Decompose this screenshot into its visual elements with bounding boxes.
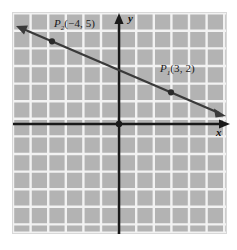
- coordinate-plane-figure: P2(−4, 5) P1(3, 2) y x: [0, 0, 237, 250]
- point-label-p1: P1(3, 2): [160, 62, 195, 77]
- point-label-p2-coords: (−4, 5): [64, 17, 95, 29]
- point-label-p1-name: P: [160, 62, 167, 74]
- x-axis-label: x: [216, 126, 222, 138]
- point-label-p2-name: P: [54, 17, 61, 29]
- plot-area-background: [13, 13, 226, 233]
- point-label-p2: P2(−4, 5): [54, 17, 95, 32]
- point-label-p1-coords: (3, 2): [170, 62, 194, 74]
- y-axis-label: y: [128, 12, 133, 24]
